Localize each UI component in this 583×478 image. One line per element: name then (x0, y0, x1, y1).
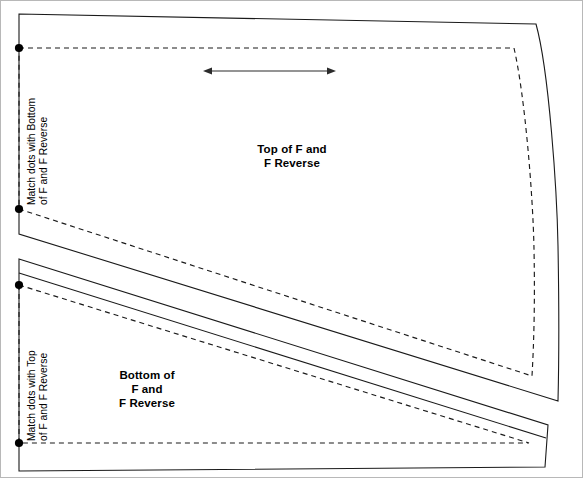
match-dot-top-upper (15, 44, 23, 52)
pattern-sheet: Top of F and F Reverse Bottom of F and F… (0, 0, 583, 478)
top-piece-stitching-line (19, 48, 534, 376)
match-dot-bottom-lower (15, 439, 23, 447)
grainline-arrowhead-right (327, 67, 336, 74)
bottom-piece-stitching-line (19, 285, 529, 443)
bottom-piece-label: Bottom of F and F Reverse (75, 368, 219, 410)
grainline-arrow-icon (203, 67, 336, 74)
bottom-piece-cutting-line (19, 259, 548, 471)
bottom-piece-match-note: Match dots with Top of F and F Reverse (26, 279, 50, 441)
pattern-piece-bottom (19, 259, 548, 471)
top-piece-cutting-line (19, 14, 559, 401)
top-piece-match-note: Match dots with Bottom of F and F Revers… (26, 43, 50, 205)
match-dot-bottom-upper (15, 281, 23, 289)
grainline-arrowhead-left (203, 67, 212, 74)
pattern-piece-top (19, 14, 559, 401)
bottom-piece-fold-line (19, 273, 546, 438)
match-dot-top-lower (15, 205, 23, 213)
top-piece-label: Top of F and F Reverse (220, 142, 364, 170)
